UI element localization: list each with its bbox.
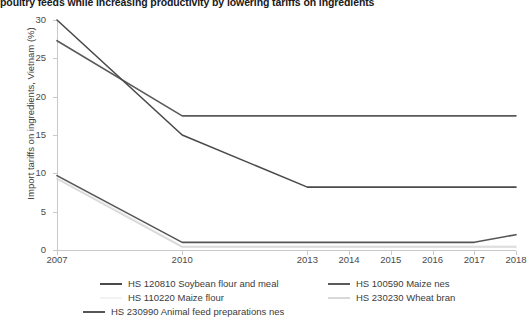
legend-label: HS 110220 Maize flour xyxy=(128,292,224,303)
legend-label: HS 230990 Animal feed preparations nes xyxy=(111,306,284,317)
chart-figure: poultry feeds while increasing productiv… xyxy=(0,0,531,332)
series-line xyxy=(57,176,516,243)
legend-line-swatch xyxy=(328,297,350,299)
legend-label: HS 120810 Soybean flour and meal xyxy=(128,278,279,289)
series-line xyxy=(57,20,516,187)
legend-item[interactable]: HS 230990 Animal feed preparations nes xyxy=(83,306,284,317)
legend-item[interactable]: HS 110220 Maize flour xyxy=(100,292,224,303)
legend-label: HS 230230 Wheat bran xyxy=(356,292,455,303)
legend-line-swatch xyxy=(83,311,105,313)
legend-item[interactable]: HS 120810 Soybean flour and meal xyxy=(100,278,279,289)
legend-line-swatch xyxy=(100,283,122,285)
legend-item[interactable]: HS 230230 Wheat bran xyxy=(328,292,455,303)
chart-legend: HS 120810 Soybean flour and mealHS 10059… xyxy=(0,276,531,332)
legend-line-swatch xyxy=(328,283,350,285)
legend-line-swatch xyxy=(100,297,122,299)
legend-label: HS 100590 Maize nes xyxy=(356,278,449,289)
legend-item[interactable]: HS 100590 Maize nes xyxy=(328,278,449,289)
series-line xyxy=(57,41,516,116)
